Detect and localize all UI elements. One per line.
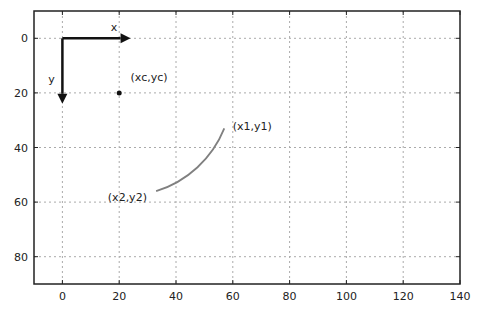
y-tick-label: 0 <box>21 32 28 45</box>
x-tick-label: 40 <box>169 290 183 303</box>
annotation-label: (x1,y1) <box>233 120 272 133</box>
annotation-label: y <box>48 73 55 86</box>
x-tick-label: 0 <box>59 290 66 303</box>
arc-curve <box>156 128 224 191</box>
y-tick-label: 40 <box>14 142 28 155</box>
y-tick-label: 20 <box>14 87 28 100</box>
grid-lines <box>34 11 460 284</box>
x-tick-label: 120 <box>393 290 414 303</box>
arrow-head-x-icon <box>121 33 131 43</box>
plot-content: xy(xc,yc)(x1,y1)(x2,y2) <box>48 21 272 203</box>
plot-frame <box>34 11 460 284</box>
x-tick-label: 100 <box>336 290 357 303</box>
x-tick-label: 20 <box>112 290 126 303</box>
annotation-label: (xc,yc) <box>131 71 168 84</box>
center-point <box>117 90 122 95</box>
axis-ticks: 020406080100120140020406080 <box>14 11 471 303</box>
arrow-head-y-icon <box>57 94 67 104</box>
annotation-label: x <box>111 21 118 34</box>
arc-diagram-chart: 020406080100120140020406080 xy(xc,yc)(x1… <box>0 0 479 313</box>
y-tick-label: 80 <box>14 251 28 264</box>
x-tick-label: 140 <box>450 290 471 303</box>
y-tick-label: 60 <box>14 196 28 209</box>
annotation-label: (x2,y2) <box>108 191 147 204</box>
x-tick-label: 80 <box>283 290 297 303</box>
x-tick-label: 60 <box>226 290 240 303</box>
